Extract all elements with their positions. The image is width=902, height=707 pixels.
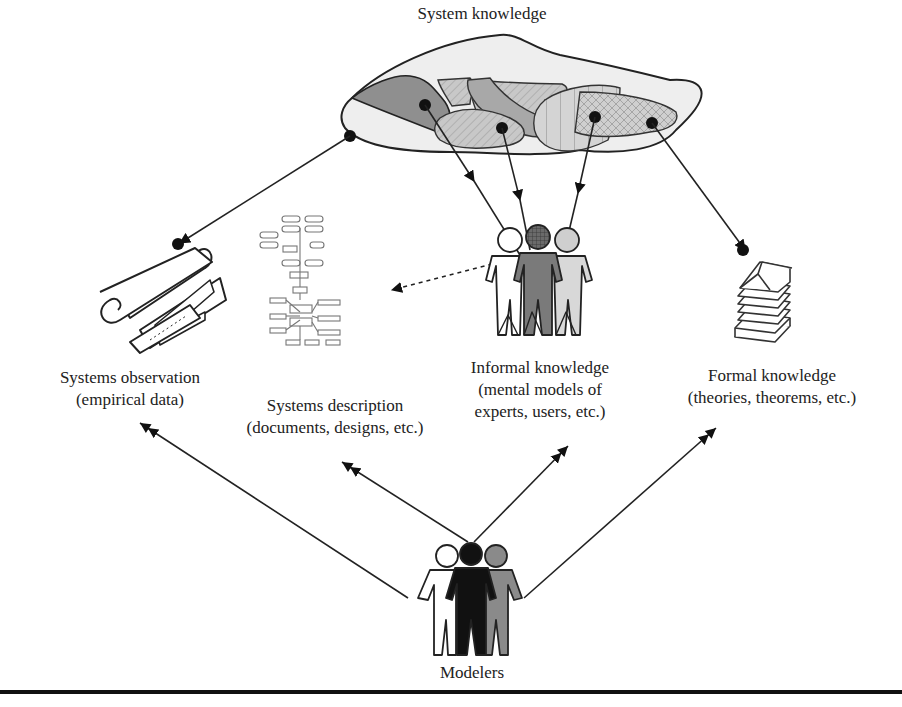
rolled-paper-ruler-icon	[100, 248, 226, 353]
system-knowledge-cloud	[341, 35, 701, 154]
label-formal-knowledge: Formal knowledge (theories, theorems, et…	[652, 365, 892, 409]
stack-of-books-icon	[735, 262, 792, 342]
group-of-people-icon	[486, 225, 592, 335]
knowledge-diagram	[0, 0, 902, 707]
title-system-knowledge: System knowledge	[412, 3, 552, 25]
label-systems-observation: Systems observation (empirical data)	[20, 367, 240, 411]
label-modelers: Modelers	[420, 662, 524, 684]
modelers-people-icon	[418, 543, 522, 655]
bottom-rule-divider	[0, 690, 902, 694]
flowchart-document-icon	[260, 216, 340, 345]
label-informal-knowledge: Informal knowledge (mental models of exp…	[440, 357, 640, 423]
label-systems-description: Systems description (documents, designs,…	[215, 395, 455, 439]
modeler-connectors	[140, 423, 716, 598]
